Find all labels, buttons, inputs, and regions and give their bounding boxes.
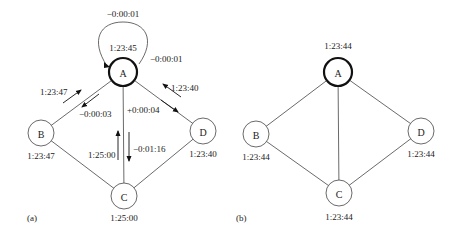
svg-text:C: C — [121, 192, 128, 203]
msg-a-to-c: −0:01:16 — [133, 144, 166, 154]
panel-a-caption: (a) — [27, 213, 37, 223]
node-d: D 1:23:40 — [189, 118, 217, 159]
node-a-time: 1:23:44 — [324, 41, 352, 51]
self-loop-label-top: −0:00:01 — [107, 9, 140, 19]
node-c-time: 1:23:44 — [325, 212, 353, 222]
edge-a-d — [338, 72, 421, 131]
msg-a-to-b: −0:00:03 — [79, 109, 112, 119]
svg-text:A: A — [334, 68, 342, 79]
node-a: A 1:23:45 — [109, 43, 137, 86]
node-a-time: 1:23:45 — [109, 43, 137, 53]
self-loop-label-right: −0:00:01 — [150, 54, 183, 64]
diagram-canvas: −0:00:01 −0:00:01 1:23:47 −0:00:03 1:23:… — [0, 0, 458, 234]
node-b: B 1:23:47 — [27, 120, 55, 161]
msg-b-to-a: 1:23:47 — [40, 87, 68, 97]
node-b-time: 1:23:47 — [27, 151, 55, 161]
edge-a-c — [338, 72, 339, 193]
edge-b-c — [256, 134, 339, 193]
svg-text:C: C — [336, 189, 343, 200]
panel-b-caption: (b) — [236, 213, 247, 223]
edge-a-c — [123, 72, 124, 196]
edge-d-c — [339, 131, 421, 193]
msg-d-to-a: 1:23:40 — [171, 83, 199, 93]
edge-d-c — [124, 131, 203, 196]
node-d: D 1:23:44 — [407, 118, 435, 159]
node-d-time: 1:23:40 — [189, 149, 217, 159]
msg-a-to-d: +0:00:04 — [127, 105, 160, 115]
msg-c-to-a: 1:25:00 — [88, 150, 116, 160]
svg-text:D: D — [199, 127, 206, 138]
arrow-a-to-d-icon — [161, 100, 178, 112]
edge-a-b — [41, 72, 123, 133]
svg-text:A: A — [119, 68, 127, 79]
panel-a: −0:00:01 −0:00:01 1:23:47 −0:00:03 1:23:… — [27, 9, 217, 223]
node-b: B 1:23:44 — [242, 121, 270, 162]
node-c: C 1:23:44 — [325, 180, 353, 222]
edge-b-c — [41, 133, 124, 196]
svg-text:B: B — [38, 129, 45, 140]
node-d-time: 1:23:44 — [407, 149, 435, 159]
node-c: C 1:25:00 — [110, 183, 138, 223]
edge-a-b — [256, 72, 338, 134]
node-c-time: 1:25:00 — [110, 213, 138, 223]
svg-text:D: D — [417, 127, 424, 138]
node-a: A 1:23:44 — [324, 41, 352, 86]
panel-b: A 1:23:44 B 1:23:44 C 1:23:44 D 1:23:44 … — [236, 41, 435, 223]
svg-text:B: B — [253, 130, 260, 141]
node-b-time: 1:23:44 — [242, 152, 270, 162]
